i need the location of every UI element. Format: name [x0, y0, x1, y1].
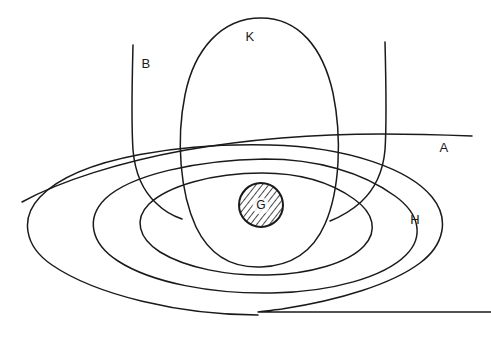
ellipse-h-outer [28, 145, 491, 315]
label-k: K [246, 29, 255, 44]
figure-canvas: A B K G H [0, 0, 491, 341]
label-b: B [142, 56, 151, 71]
diagram-svg: A B K G H [0, 0, 491, 341]
label-h: H [410, 212, 420, 227]
label-g: G [256, 198, 265, 212]
label-a: A [440, 140, 449, 155]
curve-b [132, 45, 182, 219]
oval-k [180, 18, 338, 267]
